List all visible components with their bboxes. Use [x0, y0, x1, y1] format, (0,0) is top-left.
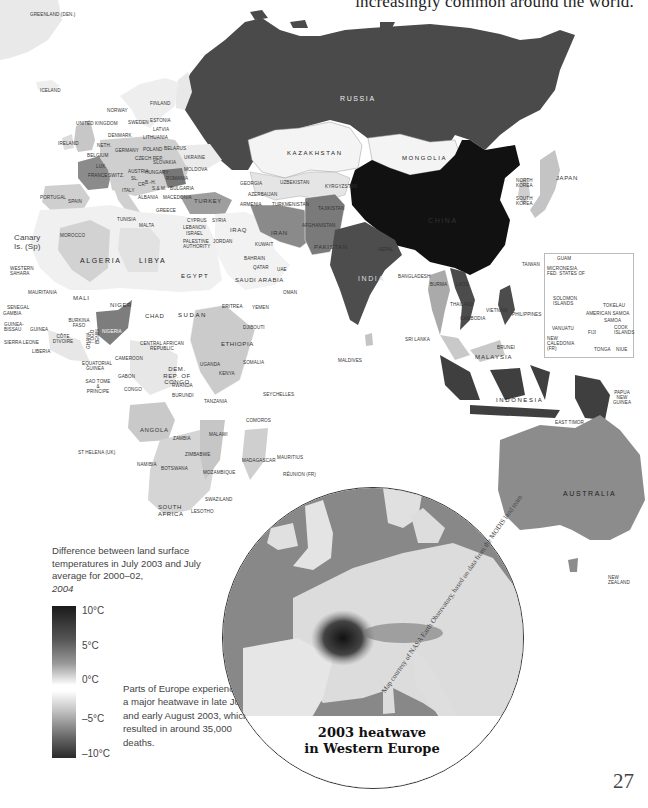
label-maldives: MALDIVES — [338, 358, 362, 363]
label-taiwan: TAIWAN — [522, 262, 540, 267]
label-neth: NETH. — [97, 143, 111, 148]
region-sri-lanka — [365, 333, 373, 346]
label-turkey: TURKEY — [194, 198, 222, 205]
label-denmark: DENMARK — [108, 133, 132, 138]
scale-tick-minus10: –10°C — [82, 748, 110, 759]
label-mauritania: MAURITANIA — [28, 290, 57, 295]
label-greenland: GREENLAND (Den.) — [30, 12, 76, 17]
label-vanuatu: VANUATU — [552, 326, 574, 331]
label-solomon: SOLOMON ISLANDS — [553, 296, 581, 306]
label-oman: OMAN — [283, 290, 297, 295]
label-belarus: BELARUS — [164, 146, 186, 151]
label-sao-tome: SAO TOME & PRINCIPE — [85, 379, 111, 394]
label-nepal: NEPAL — [378, 247, 393, 252]
label-macedonia: MACEDONIA — [163, 195, 192, 200]
legend-caption: Difference between land surface temperat… — [52, 545, 212, 595]
label-iran: IRAN — [271, 230, 288, 237]
label-pakistan: PAKISTAN — [314, 244, 348, 251]
legend-caption-year: 2004 — [52, 583, 212, 596]
label-azerbaijan: AZERBAIJAN — [248, 192, 277, 197]
label-tokelau: TOKELAU — [603, 303, 625, 308]
label-switz: SWITZ. — [108, 173, 124, 178]
label-american-samoa: AMERICAN SAMOA — [586, 311, 630, 316]
label-zambia: ZAMBIA — [173, 436, 191, 441]
label-yemen: YEMEN — [252, 305, 269, 310]
label-morocco: MOROCCO — [60, 233, 85, 238]
label-bulgaria: BULGARIA — [170, 186, 194, 191]
label-angola: ANGOLA — [140, 427, 169, 434]
label-south-korea: SOUTH KOREA — [516, 196, 534, 206]
label-bh: B.-H. — [145, 180, 156, 185]
label-samoa: SAMOA — [604, 318, 621, 323]
label-western-sahara: WESTERN SAHARA — [10, 266, 34, 276]
label-jordan: JORDAN — [213, 239, 233, 244]
label-sierra-leone: SIERRA LEONE — [4, 340, 39, 345]
label-seychelles: SEYCHELLES — [263, 392, 294, 397]
label-india: INDIA — [358, 275, 385, 283]
region-indonesia — [440, 355, 560, 418]
label-sudan: SUDAN — [178, 312, 207, 319]
label-kenya: KENYA — [219, 371, 235, 376]
inset-title-line2: in Western Europe — [222, 741, 522, 757]
label-palestine: PALESTINE AUTHORITY — [183, 239, 213, 249]
label-png: PAPUA NEW GUINEA — [610, 390, 634, 405]
label-cambodia: CAMBODIA — [460, 316, 485, 321]
label-sm: S.& M. — [152, 186, 166, 191]
label-malaysia: MALAYSIA — [475, 354, 513, 361]
label-bahrain: BAHRAIN — [244, 256, 265, 261]
label-hungary: HUNGARY — [145, 170, 169, 175]
label-botswana: BOTSWANA — [161, 466, 188, 471]
label-uzbekistan: UZBEKISTAN — [280, 180, 310, 185]
region-australia — [498, 415, 645, 540]
page-number: 27 — [613, 769, 634, 794]
label-ukraine: UKRAINE — [184, 155, 205, 160]
label-micronesia: MICRONESIA, FED. STATES OF — [547, 266, 587, 276]
label-tonga: TONGA — [594, 347, 611, 352]
label-new-caledonia: NEW CALEDONIA (Fr) — [547, 336, 577, 351]
label-vietnam: VIETNAM — [486, 308, 507, 313]
label-romania: ROMANIA — [166, 176, 188, 181]
label-burma: BURMA — [430, 282, 447, 287]
label-slovakia: SLOVAKIA — [153, 160, 176, 165]
label-estonia: ESTONIA — [150, 118, 171, 123]
label-iceland: ICELAND — [40, 88, 61, 93]
label-cook: COOK ISLANDS — [614, 325, 632, 335]
label-germany: GERMANY — [115, 148, 139, 153]
label-nigeria: NIGERIA — [102, 329, 122, 334]
label-congo: CONGO — [124, 387, 142, 392]
region-greenland — [0, 0, 62, 60]
scale-tick-0: 0°C — [82, 674, 99, 685]
inset-title-line1: 2003 heatwave — [222, 725, 522, 741]
label-qatar: QATAR — [253, 265, 269, 270]
label-chad: CHAD — [145, 313, 164, 320]
region-angola — [128, 402, 175, 442]
label-gambia: GAMBIA — [3, 311, 21, 316]
label-poland: POLAND — [143, 147, 163, 152]
label-albania: ALBANIA — [138, 195, 158, 200]
label-car: CENTRAL AFRICAN REPUBLIC — [140, 341, 184, 351]
region-philippines — [498, 285, 515, 325]
label-italy: ITALY — [122, 188, 135, 193]
label-gabon: GABON — [118, 374, 135, 379]
label-sweden: SWEDEN — [128, 120, 149, 125]
label-south-africa: SOUTH AFRICA — [158, 504, 188, 517]
label-mongolia: MONGOLIA — [402, 155, 447, 162]
label-brunei: BRUNEI — [497, 345, 515, 350]
label-japan: JAPAN — [556, 175, 578, 182]
label-spain: SPAIN — [68, 199, 82, 204]
label-lebanon: LEBANON — [183, 225, 206, 230]
label-sl: SL. — [131, 176, 138, 181]
label-indonesia: INDONESIA — [496, 397, 543, 404]
label-burkina: BURKINA FASO — [68, 318, 90, 328]
label-niger: NIGER — [110, 302, 132, 309]
label-djibouti: DJIBOUTI — [243, 325, 265, 330]
label-namibia: NAMIBIA — [137, 462, 157, 467]
label-rwanda: RWANDA — [172, 383, 193, 388]
label-lesotho: LESOTHO — [191, 509, 214, 514]
label-new-zealand: NEW ZEALAND — [608, 575, 630, 585]
label-egypt: EGYPT — [181, 273, 209, 280]
label-north-korea: NORTH KOREA — [516, 178, 534, 188]
label-east-timor: EAST TIMOR — [555, 420, 584, 425]
label-madagascar: MADAGASCAR — [242, 458, 276, 463]
label-ethiopia: ETHIOPIA — [221, 341, 254, 348]
